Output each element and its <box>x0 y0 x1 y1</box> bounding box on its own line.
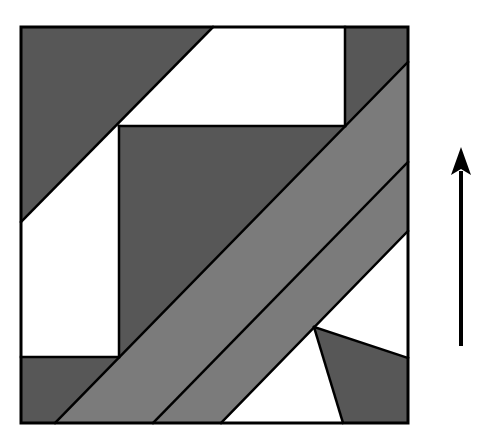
geometric-diagram <box>0 0 486 441</box>
diagram-regions <box>21 27 408 423</box>
up-arrow-icon <box>451 147 471 346</box>
arrow-shaft <box>459 171 463 346</box>
arrow-head <box>451 147 471 175</box>
